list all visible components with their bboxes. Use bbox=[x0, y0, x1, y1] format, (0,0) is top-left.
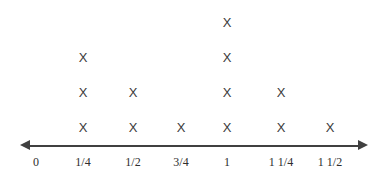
x-mark: X bbox=[210, 75, 244, 110]
tick-label: 1 bbox=[197, 155, 257, 170]
x-mark: X bbox=[210, 110, 244, 145]
x-mark: X bbox=[66, 40, 100, 75]
x-mark: X bbox=[210, 5, 244, 40]
x-mark: X bbox=[116, 110, 150, 145]
x-mark: X bbox=[66, 110, 100, 145]
x-mark: X bbox=[210, 40, 244, 75]
x-mark: X bbox=[313, 110, 347, 145]
dot-column: XX bbox=[116, 75, 150, 145]
dot-column: XXXX bbox=[210, 5, 244, 145]
axis-line bbox=[27, 145, 361, 147]
dot-column: X bbox=[164, 110, 198, 145]
dot-plot-figure: XXXXXXXXXXXXX 01/41/23/411 1/41 1/2 bbox=[0, 0, 388, 181]
dot-column: X bbox=[313, 110, 347, 145]
tick-label: 1 1/2 bbox=[300, 155, 360, 170]
dot-column: XXX bbox=[66, 40, 100, 145]
axis-tick-labels: 01/41/23/411 1/41 1/2 bbox=[0, 155, 388, 175]
number-line-axis bbox=[20, 144, 368, 147]
dot-column: XX bbox=[264, 75, 298, 145]
x-mark: X bbox=[66, 75, 100, 110]
arrow-right-icon bbox=[358, 140, 368, 150]
x-mark: X bbox=[264, 75, 298, 110]
plot-area: XXXXXXXXXXXXX bbox=[0, 0, 388, 145]
x-mark: X bbox=[164, 110, 198, 145]
x-mark: X bbox=[264, 110, 298, 145]
x-mark: X bbox=[116, 75, 150, 110]
